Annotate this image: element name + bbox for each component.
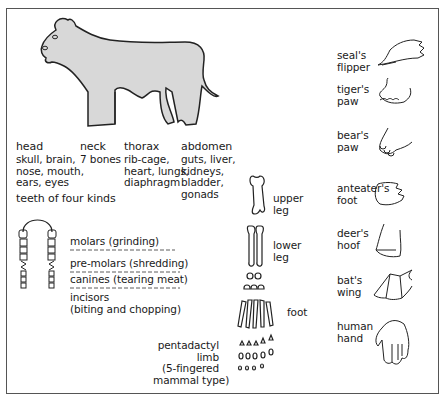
- bat-wing-label: bat's wing: [337, 275, 362, 298]
- deer-hoof-icon: [376, 224, 401, 257]
- bat-wing-icon: [374, 270, 412, 300]
- anteater-foot-label: anteater's foot: [337, 183, 389, 206]
- bear-paw-icon: [380, 128, 412, 156]
- human-hand-label: human hand: [337, 321, 373, 344]
- deer-hoof-label: deer's hoof: [337, 228, 369, 251]
- tiger-paw-icon: [380, 78, 411, 103]
- seal-flipper-icon: [378, 40, 424, 65]
- tiger-paw-label: tiger's paw: [337, 84, 369, 107]
- bear-paw-label: bear's paw: [337, 130, 369, 153]
- human-hand-icon: [376, 321, 409, 365]
- seal-flipper-label: seal's flipper: [337, 50, 370, 73]
